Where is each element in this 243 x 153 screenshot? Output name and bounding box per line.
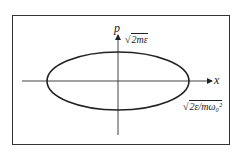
- phase-space-plot: [0, 0, 243, 153]
- sqrt-symbol: √: [183, 101, 189, 112]
- p-intercept-label: √2mε: [125, 34, 148, 45]
- p-intercept-radicand: 2mε: [131, 33, 148, 45]
- sqrt-symbol: √: [125, 34, 131, 45]
- x-intercept-radicand: 2ε/mω₀²: [189, 100, 222, 112]
- p-axis-label: p: [114, 21, 120, 36]
- x-intercept-label: √2ε/mω₀²: [183, 101, 222, 112]
- x-axis-label: x: [214, 73, 219, 88]
